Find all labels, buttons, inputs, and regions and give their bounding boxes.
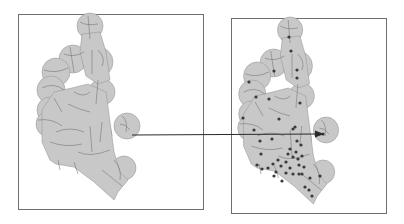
right-region-map bbox=[238, 17, 339, 204]
left-region-map bbox=[36, 13, 140, 200]
diagram-canvas bbox=[0, 0, 404, 224]
